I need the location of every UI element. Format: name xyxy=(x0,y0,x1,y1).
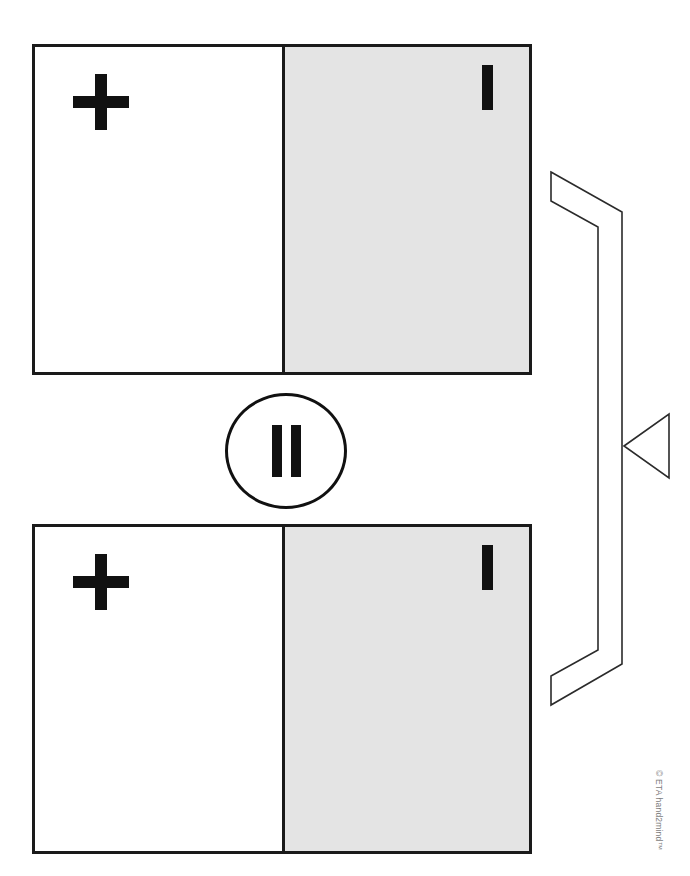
equals-badge xyxy=(225,393,347,509)
copyright-notice: © ETA hand2mind™ xyxy=(572,770,664,784)
plus-sign-icon xyxy=(73,554,129,610)
card-bottom-left-pane xyxy=(35,527,285,851)
worksheet-page: © ETA hand2mind™ xyxy=(0,0,690,876)
card-top-right-pane xyxy=(285,47,529,372)
card-bottom-right-pane xyxy=(285,527,529,851)
card-top-left-pane xyxy=(35,47,285,372)
arrowhead-left-icon xyxy=(624,414,669,478)
equation-card-top[interactable] xyxy=(32,44,532,375)
grouping-bracket-icon xyxy=(551,172,622,705)
tally-one-icon xyxy=(482,545,493,590)
tally-one-icon xyxy=(482,65,493,110)
equation-card-bottom[interactable] xyxy=(32,524,532,854)
plus-sign-icon xyxy=(73,74,129,130)
equals-bar-right xyxy=(291,425,301,477)
equals-bar-left xyxy=(272,425,282,477)
